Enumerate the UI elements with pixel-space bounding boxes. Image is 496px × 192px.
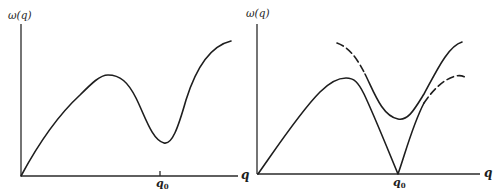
left-dispersion-curve (21, 41, 231, 176)
right-q0-label: q0 (393, 176, 406, 190)
right-lower-branch-solid (258, 78, 424, 174)
right-panel: ω(q) q q0 (246, 7, 492, 190)
right-upper-branch-dashed (337, 43, 365, 74)
right-x-axis-label: q (484, 166, 492, 180)
right-lower-branch-dashed (424, 76, 465, 103)
dispersion-diagram: ω(q) q q0 ω(q) q q0 (0, 0, 496, 192)
right-y-axis-label: ω(q) (246, 7, 269, 19)
right-upper-branch-solid (365, 42, 462, 119)
left-y-axis-label: ω(q) (8, 9, 31, 21)
left-panel: ω(q) q q0 (8, 9, 249, 191)
left-q0-label: q0 (156, 177, 169, 191)
left-x-axis-label: q (241, 168, 249, 182)
